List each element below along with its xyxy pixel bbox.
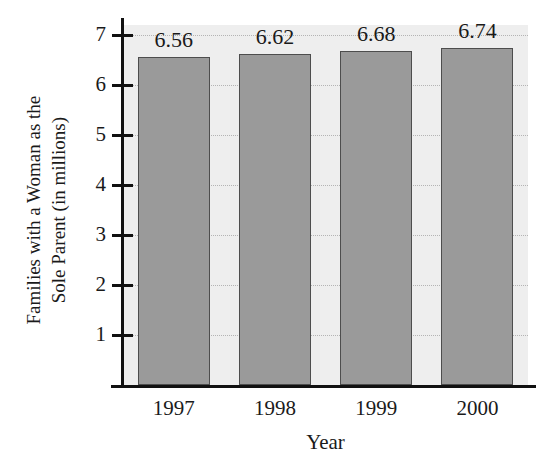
y-axis-tick: [112, 284, 133, 287]
y-axis-tick-label: 6: [80, 74, 106, 95]
bar-chart: Families with a Woman as the Sole Parent…: [0, 0, 556, 465]
y-axis-tick-label: 3: [80, 224, 106, 245]
bar: [441, 48, 513, 385]
x-axis-tick-label: 1998: [225, 398, 325, 419]
y-axis-tick: [112, 134, 133, 137]
bar: [239, 54, 311, 385]
y-axis-tick-label: 5: [80, 124, 106, 145]
bar: [138, 57, 210, 385]
bar-value-label: 6.74: [427, 20, 527, 42]
y-axis-tick: [112, 84, 133, 87]
bar-value-label: 6.68: [326, 23, 426, 45]
y-axis-tick-label: 4: [80, 174, 106, 195]
y-axis-title-line-1: Families with a Woman as the: [21, 96, 46, 325]
x-axis-tick-label: 2000: [427, 398, 527, 419]
bars-layer: [123, 25, 528, 385]
y-axis-tick-label: 2: [80, 274, 106, 295]
bar: [340, 51, 412, 385]
y-axis-tick-label: 7: [80, 24, 106, 45]
y-axis-tick: [112, 234, 133, 237]
x-axis-line: [111, 385, 536, 388]
plot-area: [123, 25, 528, 385]
x-axis-title: Year: [123, 432, 528, 453]
x-axis-tick-label: 1997: [124, 398, 224, 419]
y-axis-tick: [112, 184, 133, 187]
y-axis-tick-labels: 7654321: [72, 0, 106, 465]
x-axis-tick-label: 1999: [326, 398, 426, 419]
y-axis-title: Families with a Woman as the Sole Parent…: [14, 0, 78, 420]
y-axis-tick: [112, 334, 133, 337]
bar-value-label: 6.56: [124, 29, 224, 51]
y-axis-tick-label: 1: [80, 324, 106, 345]
bar-value-label: 6.62: [225, 26, 325, 48]
y-axis-line: [121, 18, 124, 387]
y-axis-title-line-2: Sole Parent (in millions): [46, 96, 71, 325]
